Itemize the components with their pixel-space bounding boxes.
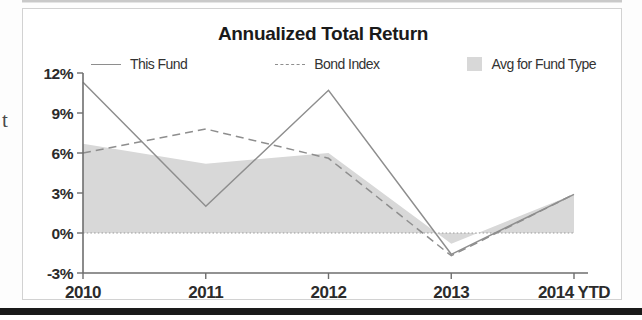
page-top-rule-shadow xyxy=(22,2,622,3)
chart-svg: 12%9%6%3%0%-3% 20102011201220132014 YTD xyxy=(23,9,623,301)
y-axis-tick-label: -3% xyxy=(47,265,74,282)
page-margin-text: t xyxy=(2,108,8,133)
x-axis-tick-label: 2011 xyxy=(188,283,223,301)
y-axis-tick-label: 12% xyxy=(43,65,73,82)
page-bottom-margin xyxy=(0,315,642,320)
y-axis-tick-label: 9% xyxy=(52,105,74,122)
x-axis-tick-label: 2013 xyxy=(433,283,469,301)
y-axis-labels-group: 12%9%6%3%0%-3% xyxy=(43,65,73,282)
x-axis-tick-label: 2012 xyxy=(311,283,347,301)
plot-area: 12%9%6%3%0%-3% 20102011201220132014 YTD xyxy=(23,9,623,301)
chart-card: Annualized Total Return This Fund Bond I… xyxy=(22,8,622,300)
x-axis-tick-label: 2014 YTD xyxy=(538,283,610,301)
y-axis-tick-label: 0% xyxy=(52,225,74,242)
y-axis-tick-label: 6% xyxy=(52,145,74,162)
x-axis-tick-label: 2010 xyxy=(65,283,101,301)
page-bottom-bar xyxy=(0,308,642,315)
screenshot-root: t Annualized Total Return This Fund Bond… xyxy=(0,0,642,320)
x-axis-labels-group: 20102011201220132014 YTD xyxy=(65,283,610,301)
y-axis-tick-label: 3% xyxy=(52,185,74,202)
